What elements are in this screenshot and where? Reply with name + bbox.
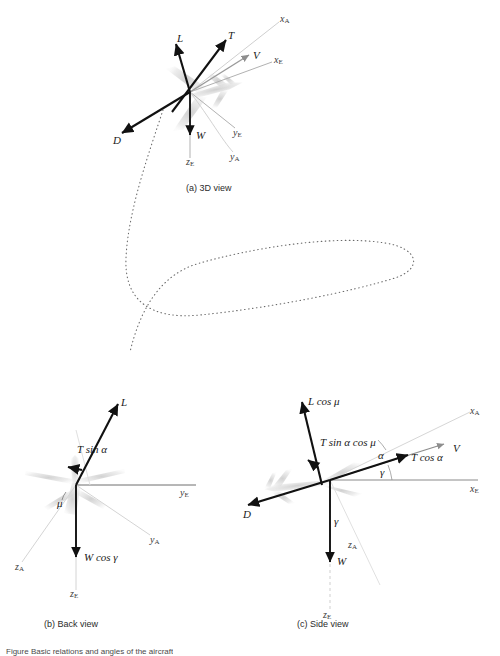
label-weight-c: W (337, 556, 346, 567)
axis-label-za-c: zA (348, 540, 357, 551)
panel-c-caption: (c) Side view (297, 619, 349, 629)
label-tcosa-c: T cos α (411, 452, 443, 463)
figure-root: L T D W V xA xE yE yA zE (a) 3D view L T… (0, 0, 500, 656)
label-lcosmu-c: L cos μ (308, 396, 340, 407)
label-drag-c: D (243, 509, 251, 520)
vector-lcosmu-c (302, 402, 322, 485)
axis-label-xe-c: xE (470, 484, 479, 495)
label-gamma-vertical-c: γ (334, 516, 338, 527)
angle-gamma-arc-c (388, 465, 392, 480)
label-tsinacosmu-c: T sin α cos μ (320, 437, 376, 448)
label-velocity-c: V (453, 443, 460, 454)
figure-caption: Figure Basic relations and angles of the… (6, 647, 173, 656)
vector-tcosa-c (330, 455, 408, 480)
axis-label-xa-c: xA (470, 406, 480, 417)
panel-c-graphics (0, 0, 500, 656)
label-gamma-c: γ (380, 467, 384, 478)
label-alpha-c: α (378, 450, 384, 461)
